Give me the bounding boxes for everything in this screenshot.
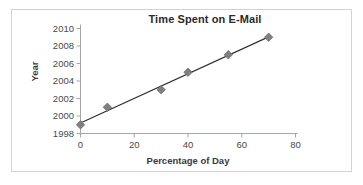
data-point-marker [103, 103, 111, 111]
tick-marks [77, 29, 296, 138]
data-markers [76, 33, 273, 129]
data-point-marker [224, 51, 232, 59]
data-point-marker [157, 86, 165, 94]
plot-area [0, 0, 363, 185]
chart-figure: Time Spent on E-Mail Year Percentage of … [0, 0, 363, 185]
axis-lines [81, 25, 298, 134]
data-point-marker [264, 33, 272, 41]
